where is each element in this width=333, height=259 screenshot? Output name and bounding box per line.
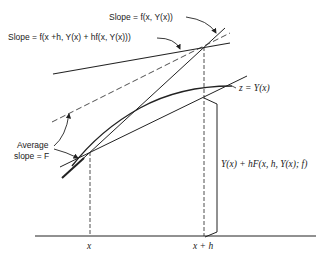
xh-tick-label: x + h — [192, 241, 213, 251]
increment-bracket — [204, 98, 217, 237]
arrow-slope-at-x — [186, 17, 216, 33]
tangent-at-x — [62, 28, 225, 178]
runge-kutta-diagram: Slope = f(x, Y(x)) Slope = f(x +h, Y(x) … — [0, 0, 333, 259]
curve-label: z = Y(x) — [238, 83, 270, 94]
average-slope-dashed-line — [52, 33, 230, 122]
average-label-line1: Average — [17, 140, 49, 150]
solution-curve — [72, 86, 232, 166]
slope-at-xh-label: Slope = f(x +h, Y(x) + hf(x, Y(x))) — [8, 32, 131, 42]
increment-label: Y(x) + hF(x, h, Y(x); f) — [221, 159, 307, 170]
arrow-average-up — [54, 114, 69, 146]
average-slope-line — [60, 76, 247, 167]
slope-at-x-label: Slope = f(x, Y(x)) — [109, 12, 173, 22]
slope-at-xh-line — [53, 43, 230, 74]
arrow-slope-at-xh — [157, 38, 180, 49]
arrow-average-down — [54, 149, 78, 158]
curve-label-tick — [232, 86, 236, 88]
x-tick-label: x — [86, 241, 92, 251]
average-label-line2: slope = F — [14, 151, 49, 161]
